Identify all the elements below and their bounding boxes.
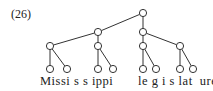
tree-node-circle-icon: [139, 28, 146, 35]
tree-node-circle-icon: [63, 65, 70, 72]
tree-edge: [100, 49, 111, 66]
tree-edge: [182, 49, 191, 66]
tree-node-circle-icon: [94, 28, 101, 35]
word-legislature: le g i s lat ure: [138, 74, 213, 89]
tree-edge: [146, 33, 176, 44]
tree-node-circle-icon: [46, 42, 53, 49]
tree-node-circle-icon: [139, 42, 146, 49]
tree-node-circle-icon: [94, 42, 101, 49]
tree-node-circle-icon: [152, 65, 159, 72]
tree-node-circle-icon: [139, 65, 146, 72]
tree-edge: [52, 49, 65, 66]
word-mississippi: Missi s s ippi: [40, 74, 113, 89]
tree-node-circle-icon: [139, 9, 146, 16]
tree-node-circle-icon: [189, 65, 196, 72]
tree-node-circle-icon: [176, 42, 183, 49]
tree-node-circle-icon: [94, 65, 101, 72]
tree-edge: [101, 14, 139, 30]
tree-node-circle-icon: [176, 65, 183, 72]
tree-node-circle-icon: [46, 65, 53, 72]
tree-edge: [53, 33, 94, 45]
tree-node-circle-icon: [109, 65, 116, 72]
tree-edge: [145, 49, 154, 66]
